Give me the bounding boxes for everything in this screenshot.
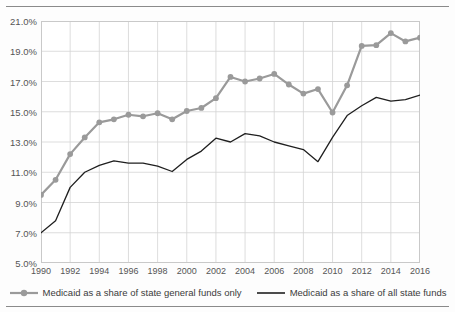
x-axis-tick-label: 2012 <box>352 266 372 276</box>
legend-label: Medicaid as a share of state general fun… <box>43 287 242 298</box>
bottom-divider <box>6 306 449 307</box>
x-axis-tick-label: 1990 <box>31 266 51 276</box>
y-axis-tick-label: 21.0% <box>0 16 37 27</box>
top-divider <box>6 6 449 7</box>
y-axis-tick-label: 13.0% <box>0 137 37 148</box>
x-axis-tick-label: 1998 <box>148 266 168 276</box>
x-axis-tick-label: 1996 <box>118 266 138 276</box>
legend-line-marker-icon <box>9 288 39 298</box>
x-axis-tick-label: 2016 <box>410 266 430 276</box>
y-axis-tick-label: 7.0% <box>0 227 37 238</box>
y-axis-tick-label: 19.0% <box>0 46 37 57</box>
x-axis-tick-label: 2008 <box>293 266 313 276</box>
x-axis-tick-label: 1994 <box>89 266 109 276</box>
plot-area <box>41 21 420 263</box>
legend-label: Medicaid as a share of all state funds <box>290 287 447 298</box>
x-axis-tick-label: 2006 <box>264 266 284 276</box>
chart-legend: Medicaid as a share of state general fun… <box>0 287 455 298</box>
x-axis-tick-label: 2000 <box>177 266 197 276</box>
x-axis-tick-label: 2002 <box>206 266 226 276</box>
legend-item[interactable]: Medicaid as a share of state general fun… <box>9 287 242 298</box>
y-axis-tick-label: 9.0% <box>0 197 37 208</box>
y-axis-tick-label: 15.0% <box>0 106 37 117</box>
x-axis-tick-label: 2010 <box>323 266 343 276</box>
legend-line-icon <box>256 288 286 298</box>
y-axis-tick-label: 17.0% <box>0 76 37 87</box>
chart-container: 21.0%19.0%17.0%15.0%13.0%11.0%9.0%7.0%5.… <box>0 0 455 312</box>
x-axis-tick-label: 1992 <box>60 266 80 276</box>
line-chart-svg <box>41 21 420 263</box>
y-axis-tick-label: 11.0% <box>0 167 37 178</box>
x-axis-tick-label: 2004 <box>235 266 255 276</box>
x-axis-tick-label: 2014 <box>381 266 401 276</box>
legend-item[interactable]: Medicaid as a share of all state funds <box>256 287 447 298</box>
